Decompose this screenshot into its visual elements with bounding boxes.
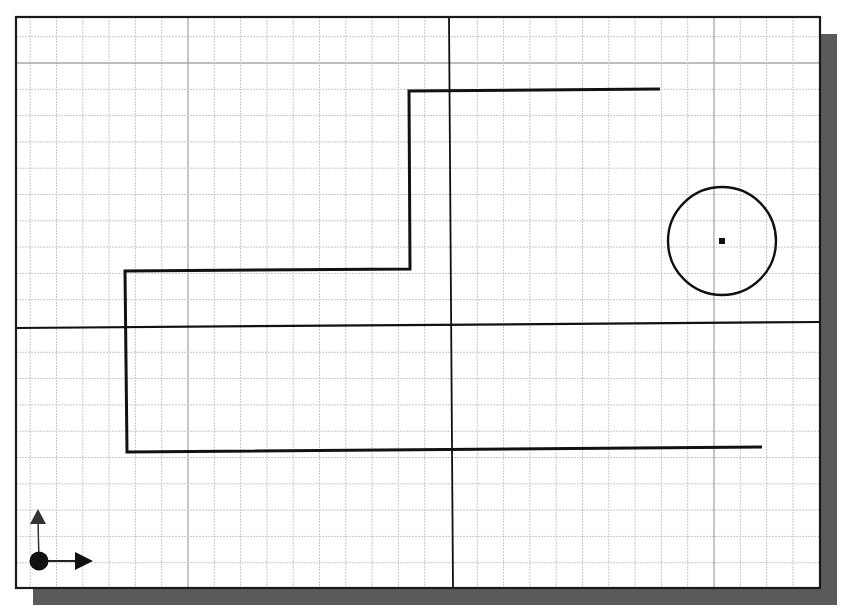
viewport-background[interactable] <box>16 17 820 588</box>
cad-drawing-canvas[interactable] <box>0 0 850 613</box>
circle-center-marker <box>719 238 725 244</box>
ucs-origin-dot-icon <box>30 552 49 571</box>
